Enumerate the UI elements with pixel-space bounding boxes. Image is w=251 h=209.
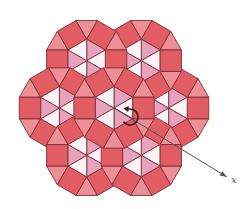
x-axis-label: x: [231, 174, 237, 185]
square-tile: [74, 97, 96, 119]
square-tile: [160, 50, 182, 72]
square-tile: [47, 145, 69, 167]
square-tile: [187, 97, 209, 119]
x-axis-arrowhead: [220, 171, 227, 177]
square-tile: [19, 97, 41, 119]
tiling-diagram: x: [0, 0, 251, 209]
dodecagonal-tiling: [19, 21, 209, 196]
square-tile: [133, 97, 155, 119]
